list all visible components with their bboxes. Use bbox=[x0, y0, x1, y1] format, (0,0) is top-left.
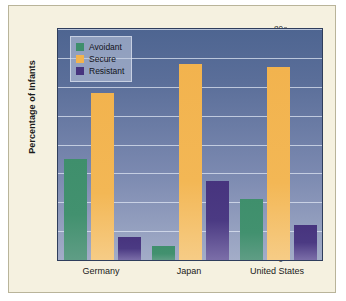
bar-japan-resistant bbox=[206, 181, 229, 260]
chart-figure: Percentage of Infants 01020304050607080 … bbox=[8, 5, 336, 293]
gridline bbox=[58, 29, 322, 30]
legend-swatch-icon bbox=[76, 55, 84, 63]
legend-label: Resistant bbox=[89, 66, 124, 76]
legend-swatch-icon bbox=[76, 43, 84, 51]
bar-united-states-avoidant bbox=[240, 199, 263, 260]
bar-germany-resistant bbox=[118, 237, 141, 260]
legend-item-avoidant: Avoidant bbox=[76, 41, 124, 53]
bar-japan-avoidant bbox=[152, 246, 175, 260]
bar-germany-secure bbox=[91, 93, 114, 260]
legend-label: Secure bbox=[89, 54, 116, 64]
plot-area: AvoidantSecureResistant bbox=[57, 28, 323, 261]
bar-germany-avoidant bbox=[64, 159, 87, 260]
legend-swatch-icon bbox=[76, 67, 84, 75]
legend-label: Avoidant bbox=[89, 42, 122, 52]
x-axis-label: United States bbox=[250, 266, 304, 276]
x-axis-label: Japan bbox=[177, 266, 202, 276]
bar-japan-secure bbox=[179, 64, 202, 260]
x-axis-label: Germany bbox=[82, 266, 119, 276]
legend-item-secure: Secure bbox=[76, 53, 124, 65]
y-axis-title: Percentage of Infants bbox=[27, 42, 37, 172]
bar-united-states-secure bbox=[267, 67, 290, 260]
bar-united-states-resistant bbox=[294, 225, 317, 260]
chart-legend: AvoidantSecureResistant bbox=[70, 36, 132, 82]
legend-item-resistant: Resistant bbox=[76, 65, 124, 77]
